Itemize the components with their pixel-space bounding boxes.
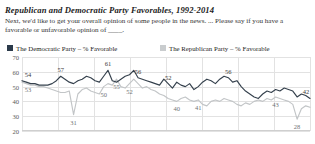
chart-subtitle: Next, we'd like to get your overall opin… [5,17,305,36]
plot-area: 706050403020 545761565256425331505552404… [22,57,310,131]
data-point-label: 57 [57,66,64,73]
data-point-label: 31 [70,118,77,125]
data-point-label: 52 [126,87,133,94]
legend-swatch-republican-icon [160,45,166,51]
data-point-label: 55 [113,83,120,90]
y-axis-tick-label: 70 [12,54,19,61]
legend-label-democratic: The Democratic Party – % Favorable [16,45,117,52]
data-point-label: 54 [25,70,32,77]
data-point-label: 56 [135,67,142,74]
y-axis-tick-label: 50 [12,83,19,90]
chart-container: Republican and Democratic Party Favorabl… [0,0,315,144]
legend-swatch-democratic-icon [7,45,13,51]
y-axis-tick-label: 20 [12,128,19,135]
data-point-label: 53 [25,86,32,93]
data-point-label: 42 [303,88,310,95]
data-point-label: 43 [272,100,279,107]
chart-title: Republican and Democratic Party Favorabl… [5,5,214,15]
data-point-label: 28 [294,123,301,130]
legend-label-republican: The Republican Party – % Favorable [169,45,270,52]
data-point-label: 41 [195,103,202,110]
chart-legend: The Democratic Party – % Favorable The R… [5,43,310,53]
gridline-horizontal [22,131,310,132]
series-paths [22,57,310,131]
y-axis-tick-label: 40 [12,98,19,105]
data-point-label: 52 [165,73,172,80]
legend-item-democratic[interactable]: The Democratic Party – % Favorable [7,43,117,53]
data-point-label: 50 [100,90,107,97]
data-point-label: 61 [105,60,112,67]
gridline-vertical [310,57,311,131]
line-republican [22,79,310,119]
data-point-label: 56 [225,67,232,74]
y-axis-tick-label: 60 [12,68,19,75]
y-axis-tick-label: 30 [12,113,19,120]
data-point-label: 40 [173,105,180,112]
legend-item-republican[interactable]: The Republican Party – % Favorable [160,43,270,53]
